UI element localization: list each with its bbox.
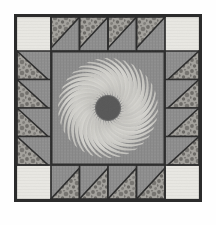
photo-grain	[14, 14, 202, 202]
quilt-block-artwork	[14, 14, 202, 202]
quilt-block	[14, 14, 202, 202]
image-canvas	[0, 0, 216, 225]
